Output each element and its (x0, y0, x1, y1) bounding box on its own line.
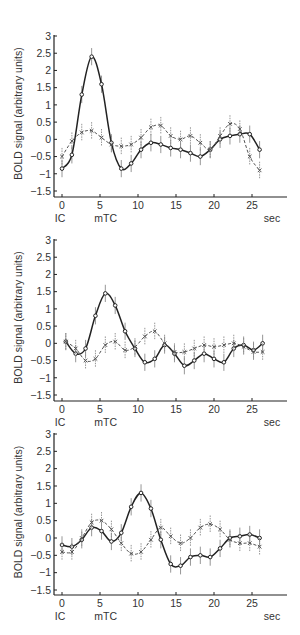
circle-marker (159, 538, 163, 542)
star-marker (169, 134, 173, 138)
star-marker (199, 526, 203, 530)
circle-marker (179, 564, 183, 568)
circle-marker (129, 505, 133, 509)
y-tick-label: 1 (45, 99, 51, 111)
star-marker (80, 131, 84, 135)
circle-marker (212, 357, 216, 361)
circle-marker (218, 547, 222, 551)
star-marker (153, 329, 157, 333)
circle-marker (60, 167, 64, 171)
panel-2: BOLD signal (arbitrary units)32.521.510.… (12, 234, 287, 428)
y-axis-label: BOLD signal (arbitrary units) (12, 251, 24, 383)
annotation-ic: IC (55, 416, 66, 428)
star-marker (258, 169, 262, 173)
axes (54, 239, 287, 401)
star-marker (199, 141, 203, 145)
x-tick-label: 15 (170, 403, 182, 415)
y-tick-label: 1 (45, 497, 51, 509)
y-tick-label: −0.5 (30, 354, 51, 366)
panel-1: BOLD signal (arbitrary units)32.521.510.… (12, 30, 287, 224)
circle-marker (183, 364, 187, 368)
circle-marker (179, 148, 183, 152)
circle-marker (80, 93, 84, 97)
annotation-ic: IC (55, 610, 66, 622)
y-tick-label: −0.5 (30, 549, 51, 561)
y-tick-label: 2.5 (36, 251, 51, 263)
y-tick-label: 0 (45, 337, 51, 349)
x-tick-label: 15 (170, 199, 182, 211)
star-marker (143, 335, 147, 339)
circle-marker (199, 554, 203, 558)
star-marker (110, 528, 114, 532)
y-tick-label: 2.5 (36, 445, 51, 457)
y-tick-label: 0 (45, 133, 51, 145)
x-tick-label: 0 (59, 403, 65, 415)
star-marker (248, 155, 252, 159)
y-tick-label: 1.5 (36, 81, 51, 93)
x-tick-label: 10 (132, 199, 144, 211)
circle-marker (169, 146, 173, 150)
x-tick-label: 15 (170, 597, 182, 609)
circle-marker (139, 491, 143, 495)
circle-marker (153, 357, 157, 361)
annotation-mtc: mTC (94, 212, 117, 224)
circle-marker (113, 304, 117, 308)
x-tick-label: 25 (246, 403, 258, 415)
y-tick-label: 3 (45, 234, 51, 246)
x-unit-label: sec (264, 212, 280, 224)
y-tick-label: −1 (39, 566, 51, 578)
circle-marker (189, 151, 193, 155)
circle-marker (258, 148, 262, 152)
panel-3: BOLD signal (arbitrary units)32.521.510.… (12, 428, 287, 622)
annotation-ic: IC (55, 212, 66, 224)
circle-marker (119, 167, 123, 171)
series-dashed (64, 323, 264, 370)
y-tick-label: −1 (39, 372, 51, 384)
circle-marker (228, 134, 232, 138)
series-solid (60, 48, 261, 177)
x-tick-label: 5 (97, 199, 103, 211)
annotation-mtc: mTC (94, 416, 117, 428)
y-tick-label: 2 (45, 462, 51, 474)
star-marker (119, 541, 123, 545)
circle-marker (222, 360, 226, 364)
x-tick-label: 20 (208, 597, 220, 609)
circle-marker (149, 141, 153, 145)
star-marker (113, 340, 117, 344)
circle-marker (192, 359, 196, 363)
circle-marker (104, 292, 108, 296)
y-axis-label: BOLD signal (arbitrary units) (12, 47, 24, 179)
y-tick-label: 0 (45, 532, 51, 544)
y-tick-label: 0.5 (36, 320, 51, 332)
y-tick-label: 1 (45, 303, 51, 315)
star-marker (139, 136, 143, 140)
x-tick-label: 20 (208, 199, 220, 211)
y-tick-label: 2 (45, 64, 51, 76)
circle-marker (169, 562, 173, 566)
circle-marker (94, 314, 98, 318)
annotation-mtc: mTC (94, 610, 117, 622)
circle-marker (159, 143, 163, 147)
y-tick-label: 3 (45, 428, 51, 440)
star-marker (189, 536, 193, 540)
y-tick-label: 0.5 (36, 514, 51, 526)
circle-marker (70, 153, 74, 157)
star-marker (149, 125, 153, 129)
y-tick-label: 2 (45, 268, 51, 280)
circle-marker (100, 529, 104, 533)
y-tick-label: 3 (45, 30, 51, 42)
star-marker (104, 343, 108, 347)
x-unit-label: sec (264, 610, 280, 622)
y-tick-label: 0.5 (36, 116, 51, 128)
star-marker (84, 359, 88, 363)
circle-marker (189, 555, 193, 559)
star-marker (60, 155, 64, 159)
y-axis-label: BOLD signal (arbitrary units) (12, 446, 24, 578)
y-tick-label: −1 (39, 168, 51, 180)
circle-marker (129, 162, 133, 166)
x-tick-label: 0 (59, 199, 65, 211)
star-marker (94, 357, 98, 361)
y-tick-label: −1.5 (30, 389, 51, 401)
axes (54, 35, 287, 197)
star-marker (70, 139, 74, 143)
